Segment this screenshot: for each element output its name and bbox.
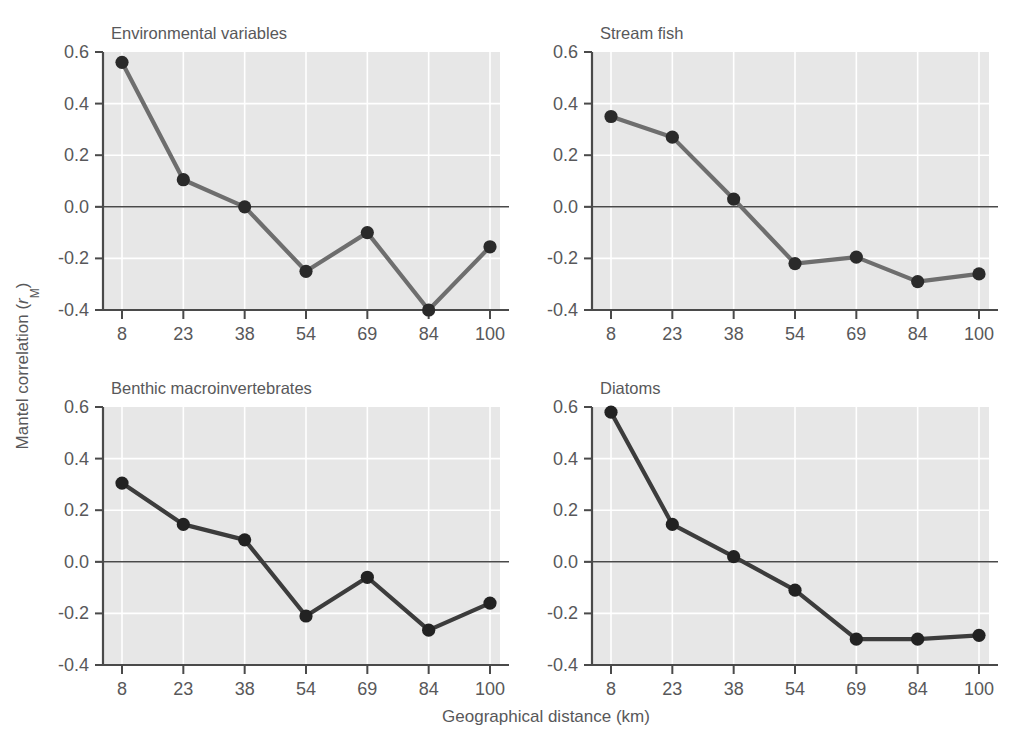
data-point-marker [727, 192, 740, 205]
panel-title: Diatoms [600, 379, 661, 397]
mantel-correlogram-figure: 0.60.40.20.0-0.2-0.482338546984100Enviro… [0, 0, 1009, 741]
plot-background [592, 407, 989, 665]
data-point-marker [666, 518, 679, 531]
y-tick-label: 0.2 [553, 145, 578, 165]
data-point-marker [422, 624, 435, 637]
x-tick-label: 23 [173, 324, 193, 344]
y-tick-label: -0.2 [58, 248, 89, 268]
x-tick-label: 69 [846, 324, 866, 344]
y-tick-label: 0.2 [553, 500, 578, 520]
y-axis-title-prefix: Mantel correlation ( [13, 304, 32, 450]
x-tick-label: 38 [724, 679, 744, 699]
y-tick-label: 0.6 [553, 397, 578, 417]
data-point-marker [299, 609, 312, 622]
y-tick-label: 0.2 [64, 145, 89, 165]
x-tick-label: 8 [606, 324, 616, 344]
y-tick-label: 0.0 [64, 197, 89, 217]
data-point-marker [727, 550, 740, 563]
chart-panel-bottom-right: 0.60.40.20.0-0.2-0.482338546984100Diatom… [547, 379, 998, 699]
x-tick-label: 38 [724, 324, 744, 344]
data-point-marker [911, 275, 924, 288]
y-tick-label: 0.4 [553, 449, 578, 469]
data-point-marker [177, 173, 190, 186]
x-axis-title: Geographical distance (km) [442, 707, 650, 726]
chart-panel-top-right: 0.60.40.20.0-0.2-0.482338546984100Stream… [547, 24, 998, 344]
data-point-marker [788, 584, 801, 597]
data-point-marker [604, 406, 617, 419]
y-tick-label: -0.2 [58, 603, 89, 623]
x-tick-label: 54 [296, 679, 316, 699]
x-tick-label: 23 [173, 679, 193, 699]
y-tick-label: 0.0 [64, 552, 89, 572]
chart-panel-top-left: 0.60.40.20.0-0.2-0.482338546984100Enviro… [58, 24, 509, 344]
x-tick-label: 69 [846, 679, 866, 699]
x-tick-label: 84 [419, 324, 439, 344]
x-tick-label: 23 [662, 679, 682, 699]
y-tick-label: 0.6 [64, 397, 89, 417]
x-tick-label: 69 [357, 679, 377, 699]
y-tick-label: -0.4 [58, 300, 89, 320]
y-tick-label: -0.4 [547, 655, 578, 675]
x-tick-label: 100 [475, 679, 505, 699]
y-tick-label: 0.2 [64, 500, 89, 520]
x-tick-label: 100 [964, 324, 994, 344]
chart-panel-bottom-left: 0.60.40.20.0-0.2-0.482338546984100Benthi… [58, 379, 509, 699]
data-point-marker [972, 629, 985, 642]
data-point-marker [299, 265, 312, 278]
x-tick-label: 38 [235, 324, 255, 344]
data-point-marker [115, 477, 128, 490]
x-tick-label: 100 [475, 324, 505, 344]
data-point-marker [604, 110, 617, 123]
data-point-marker [911, 633, 924, 646]
x-tick-label: 54 [785, 679, 805, 699]
y-tick-label: 0.4 [64, 449, 89, 469]
data-point-marker [483, 596, 496, 609]
figure-canvas: 0.60.40.20.0-0.2-0.482338546984100Enviro… [0, 0, 1009, 741]
x-tick-label: 38 [235, 679, 255, 699]
data-point-marker [238, 200, 251, 213]
data-point-marker [422, 303, 435, 316]
y-tick-label: 0.6 [64, 42, 89, 62]
data-point-marker [972, 267, 985, 280]
y-tick-label: -0.4 [58, 655, 89, 675]
data-point-marker [666, 131, 679, 144]
y-axis-title-suffix: ) [13, 283, 32, 289]
data-point-marker [850, 251, 863, 264]
y-tick-label: 0.6 [553, 42, 578, 62]
x-tick-label: 23 [662, 324, 682, 344]
y-tick-label: 0.4 [64, 94, 89, 114]
x-tick-label: 8 [117, 324, 127, 344]
x-tick-label: 84 [908, 679, 928, 699]
y-tick-label: -0.2 [547, 603, 578, 623]
y-axis-title-text: Mantel correlation (rM) [13, 283, 42, 450]
data-point-marker [788, 257, 801, 270]
x-tick-label: 69 [357, 324, 377, 344]
y-tick-label: -0.4 [547, 300, 578, 320]
panel-title: Environmental variables [111, 24, 287, 42]
y-axis-title-subscript: M [28, 288, 42, 298]
x-tick-label: 100 [964, 679, 994, 699]
data-point-marker [850, 633, 863, 646]
panel-title: Benthic macroinvertebrates [111, 379, 312, 397]
x-tick-label: 54 [785, 324, 805, 344]
x-tick-label: 8 [117, 679, 127, 699]
data-point-marker [115, 56, 128, 69]
y-tick-label: 0.4 [553, 94, 578, 114]
data-point-marker [361, 226, 374, 239]
x-tick-label: 84 [419, 679, 439, 699]
plot-background [592, 52, 989, 310]
x-tick-label: 84 [908, 324, 928, 344]
data-point-marker [483, 240, 496, 253]
y-tick-label: 0.0 [553, 552, 578, 572]
data-point-marker [177, 518, 190, 531]
panel-title: Stream fish [600, 24, 683, 42]
data-point-marker [361, 571, 374, 584]
y-tick-label: -0.2 [547, 248, 578, 268]
data-point-marker [238, 533, 251, 546]
x-tick-label: 8 [606, 679, 616, 699]
y-tick-label: 0.0 [553, 197, 578, 217]
y-axis-title: Mantel correlation (rM) [13, 283, 42, 450]
x-tick-label: 54 [296, 324, 316, 344]
